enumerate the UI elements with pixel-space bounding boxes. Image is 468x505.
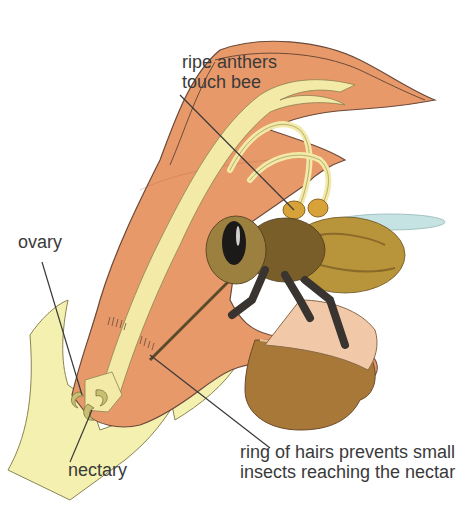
eye [222,221,246,265]
label-hairs: ring of hairs prevents small insects rea… [240,442,455,482]
anthers [283,199,328,219]
label-anthers: ripe anthers touch bee [182,52,277,92]
label-nectary: nectary [68,460,127,480]
label-hairs-line1: ring of hairs prevents small [240,442,455,462]
label-hairs-line2: insects reaching the nectar [240,462,455,482]
label-anthers-line1: ripe anthers [182,52,277,72]
label-anthers-line2: touch bee [182,72,277,92]
label-ovary: ovary [18,232,62,252]
flower-bee-diagram: ripe anthers touch bee ovary nectary rin… [0,0,468,505]
